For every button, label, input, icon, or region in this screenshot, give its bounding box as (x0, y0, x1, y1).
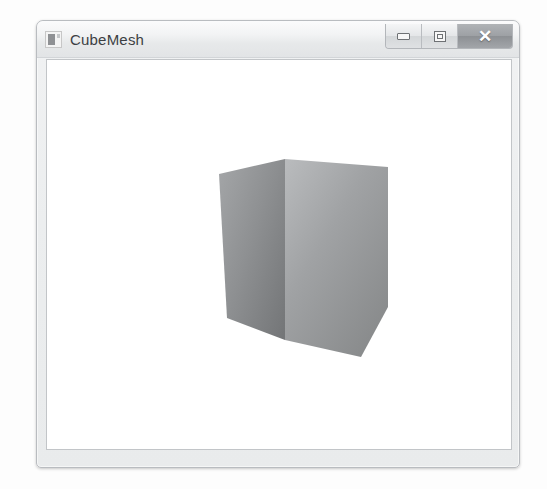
close-button[interactable]: ✕ (458, 24, 512, 48)
minimize-icon (397, 33, 410, 40)
window-controls: ✕ (385, 24, 513, 49)
maximize-icon (434, 31, 446, 42)
window-title: CubeMesh (70, 31, 144, 48)
client-area (46, 59, 512, 450)
app-window-icon (45, 31, 62, 48)
close-icon: ✕ (478, 28, 492, 45)
application-window: CubeMesh ✕ (36, 20, 520, 468)
cube-left-face (219, 159, 285, 340)
cube-mesh-svg (47, 60, 512, 449)
cube-right-face (285, 159, 388, 357)
3d-render-viewport[interactable] (47, 60, 511, 449)
minimize-button[interactable] (386, 24, 422, 48)
maximize-button[interactable] (422, 24, 458, 48)
title-bar[interactable]: CubeMesh ✕ (37, 21, 519, 58)
